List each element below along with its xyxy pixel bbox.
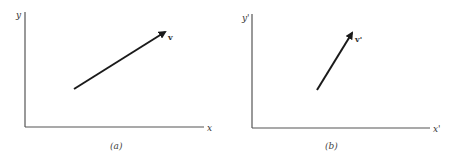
caption-b: (b) [325, 141, 338, 151]
vector-label-b: v' [354, 34, 362, 44]
x-axis-label-a: x [207, 123, 212, 133]
vector-arrow-b [317, 33, 352, 90]
caption-a: (a) [110, 141, 123, 151]
panel-b: y' x' v' (b) [241, 13, 441, 151]
vector-arrow-a [74, 32, 165, 89]
vector-diagram: y x v (a) y' x' v' (b) [0, 0, 453, 160]
x-axis-label-b: x' [433, 124, 441, 134]
y-axis-label-b: y' [241, 13, 250, 23]
y-axis-label-a: y [15, 10, 22, 20]
panel-a: y x v (a) [15, 10, 212, 151]
vector-label-a: v [167, 32, 173, 42]
